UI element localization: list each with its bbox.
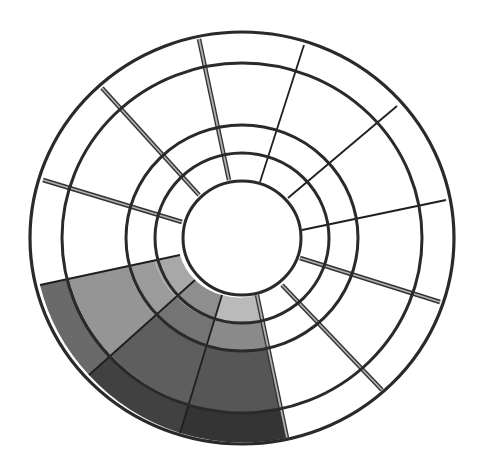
shaded-cell-c-ring-2	[207, 320, 268, 351]
spoke-4	[302, 200, 446, 230]
polar-diagram-canvas	[0, 0, 478, 469]
inner-hub	[183, 181, 301, 295]
polar-diagram	[0, 0, 478, 469]
ring-1-outer	[155, 153, 329, 323]
